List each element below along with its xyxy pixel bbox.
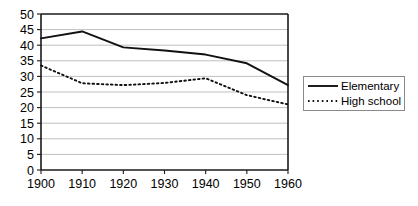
chart-canvas: 05101520253035404550 1900191019201930194… <box>0 0 418 206</box>
y-tick-label-0: 0 <box>27 164 34 178</box>
y-tick-label-25: 25 <box>20 86 34 100</box>
y-tick-label-40: 40 <box>20 39 34 53</box>
x-tick-label-1960: 1960 <box>274 177 302 191</box>
legend-label-elementary: Elementary <box>341 80 399 92</box>
y-tick-label-45: 45 <box>20 23 34 37</box>
x-tick-label-1900: 1900 <box>27 177 55 191</box>
x-tick-label-1930: 1930 <box>151 177 179 191</box>
chart-legend: Elementary High school <box>304 77 405 111</box>
x-tick-label-1950: 1950 <box>233 177 261 191</box>
y-tick-label-50: 50 <box>20 8 34 22</box>
y-tick-label-30: 30 <box>20 70 34 84</box>
x-tick-label-1920: 1920 <box>109 177 137 191</box>
line-chart: 05101520253035404550 1900191019201930194… <box>0 0 418 206</box>
legend-label-high-school: High school <box>341 95 401 107</box>
x-tick-label-1940: 1940 <box>192 177 220 191</box>
x-tick-label-1910: 1910 <box>68 177 96 191</box>
y-tick-label-35: 35 <box>20 54 34 68</box>
x-axis-tick-labels: 1900191019201930194019501960 <box>27 177 302 191</box>
y-tick-label-15: 15 <box>20 117 34 131</box>
y-tick-label-5: 5 <box>27 148 34 162</box>
y-tick-label-10: 10 <box>20 132 34 146</box>
y-tick-label-20: 20 <box>20 101 34 115</box>
